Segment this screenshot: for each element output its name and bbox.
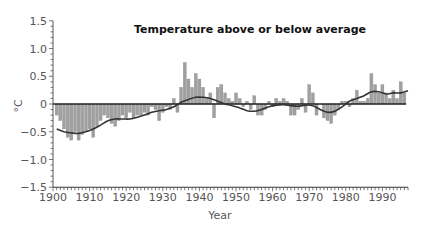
bar-1936 xyxy=(183,62,186,104)
x-tick-label: 1920 xyxy=(112,191,140,204)
bar-1938 xyxy=(191,87,194,104)
bar-1942 xyxy=(205,98,208,104)
y-tick-label: −0.5 xyxy=(20,126,47,139)
bar-1947 xyxy=(223,93,226,104)
bar-1923 xyxy=(136,104,139,115)
bar-1908 xyxy=(81,104,84,135)
bar-1968 xyxy=(300,98,303,104)
y-tick-label: 0.5 xyxy=(30,70,48,83)
bar-1905 xyxy=(70,104,73,140)
x-axis-label: Year xyxy=(207,209,232,222)
x-tick-label: 1900 xyxy=(39,191,67,204)
bar-1989 xyxy=(377,93,380,104)
temperature-chart: Temperature above or below average 1.51.… xyxy=(0,0,441,237)
x-tick-label: 1940 xyxy=(185,191,213,204)
bar-1987 xyxy=(370,73,373,104)
x-tick-label: 1990 xyxy=(368,191,396,204)
bar-1906 xyxy=(73,104,76,132)
bar-1919 xyxy=(121,104,124,115)
y-tick-label: 0 xyxy=(40,98,47,111)
bar-1988 xyxy=(374,85,377,104)
bar-1977 xyxy=(333,104,336,115)
bar-1902 xyxy=(59,104,62,121)
x-tick-label: 1960 xyxy=(259,191,287,204)
x-axis: 1900191019201930194019501960197019801990 xyxy=(39,187,408,204)
bar-1912 xyxy=(95,104,98,126)
bar-1913 xyxy=(99,104,102,121)
bar-1925 xyxy=(143,104,146,112)
bar-1909 xyxy=(84,104,87,132)
y-tick-label: 1.5 xyxy=(30,15,48,28)
bar-1961 xyxy=(275,98,278,104)
bar-1928 xyxy=(154,104,157,110)
y-axis: 1.51.00.50−0.5−1.0−1.5 xyxy=(20,15,53,195)
chart-title: Temperature above or below average xyxy=(134,23,366,36)
bar-1971 xyxy=(311,93,314,104)
bar-1970 xyxy=(308,85,311,104)
bar-1954 xyxy=(249,104,252,110)
bar-1972 xyxy=(315,104,318,115)
bar-1983 xyxy=(355,90,358,104)
y-axis-label: °C xyxy=(12,99,25,113)
bar-1944 xyxy=(213,104,216,118)
bar-1933 xyxy=(172,98,175,104)
bar-1920 xyxy=(125,104,128,118)
x-tick-label: 1910 xyxy=(76,191,104,204)
x-tick-label: 1980 xyxy=(332,191,360,204)
bar-1903 xyxy=(62,104,65,129)
bar-1914 xyxy=(103,104,106,115)
y-tick-label: 1.0 xyxy=(30,43,48,56)
bar-1955 xyxy=(253,96,256,104)
bar-1910 xyxy=(88,104,91,129)
x-tick-label: 1970 xyxy=(295,191,323,204)
bar-1963 xyxy=(282,98,285,104)
bar-1994 xyxy=(396,98,399,104)
bar-1901 xyxy=(55,104,58,115)
bar-1907 xyxy=(77,104,80,140)
bar-1951 xyxy=(238,98,241,104)
bar-1929 xyxy=(158,104,161,121)
x-tick-label: 1950 xyxy=(222,191,250,204)
bar-1996 xyxy=(403,93,406,104)
bar-1990 xyxy=(381,85,384,104)
bar-1915 xyxy=(106,104,109,118)
x-tick-label: 1930 xyxy=(149,191,177,204)
bar-1948 xyxy=(227,98,230,104)
anomaly-bars xyxy=(55,62,406,140)
bar-1976 xyxy=(330,104,333,123)
bar-1921 xyxy=(128,104,131,112)
bar-1986 xyxy=(366,98,369,104)
bar-1950 xyxy=(234,93,237,104)
bar-1911 xyxy=(92,104,95,137)
y-tick-label: −1.0 xyxy=(20,154,47,167)
bar-1917 xyxy=(114,104,117,126)
bar-1922 xyxy=(132,104,135,118)
bar-1940 xyxy=(198,79,201,104)
bar-1946 xyxy=(220,85,223,104)
bar-1924 xyxy=(139,104,142,115)
bar-1992 xyxy=(388,98,391,104)
bar-1939 xyxy=(194,73,197,104)
bar-1941 xyxy=(202,87,205,104)
